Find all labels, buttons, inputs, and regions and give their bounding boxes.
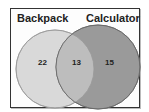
backpack-only-count: 22 [38,58,47,67]
calculator-label: Calculator [86,12,140,24]
calculator-only-count: 15 [105,58,114,67]
intersection-count: 13 [72,58,81,67]
backpack-label: Backpack [17,12,68,24]
